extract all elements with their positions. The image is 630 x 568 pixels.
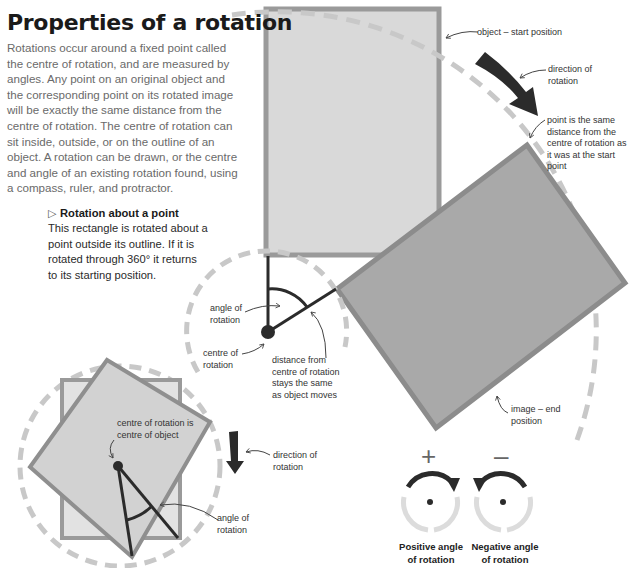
leader-inset-direction — [246, 451, 270, 455]
positive-circle-left — [404, 497, 428, 530]
inset-centre-dot — [113, 461, 123, 471]
label-inset-direction: direction of rotation — [273, 450, 328, 473]
label-object-start: object – start position — [477, 27, 617, 39]
leader-distance — [311, 312, 326, 358]
triangle-right-icon: ▷ — [48, 207, 56, 219]
positive-symbol: + — [421, 443, 436, 469]
negative-centre-dot — [500, 499, 506, 505]
positive-arrowhead — [446, 478, 460, 492]
label-distance: distance from centre of rotation stays t… — [272, 355, 340, 401]
caption-rotation-about-point: ▷Rotation about a point This rectangle i… — [48, 206, 208, 283]
label-image-end: image – end position — [511, 404, 571, 427]
label-same-distance: point is the same distance from the cent… — [547, 115, 630, 173]
leader-image-end — [497, 396, 508, 413]
positive-label: Positive angle of rotation — [398, 540, 464, 566]
label-direction: direction of rotation — [548, 64, 623, 87]
negative-arrowhead — [473, 478, 487, 492]
angle-arc — [268, 289, 307, 307]
negative-symbol: – — [494, 443, 508, 469]
centre-of-rotation-dot — [261, 325, 275, 339]
label-inset-angle: angle of rotation — [217, 513, 257, 536]
negative-circle-right — [507, 497, 531, 530]
positive-circle-right — [434, 497, 458, 530]
positive-arrow-arc — [408, 474, 452, 487]
leader-angle — [245, 306, 280, 312]
negative-label: Negative angle of rotation — [470, 540, 540, 566]
caption-body: This rectangle is rotated about a point … — [48, 222, 208, 280]
page-title: Properties of a rotation — [7, 10, 292, 35]
radius-line-end — [268, 289, 336, 332]
label-centre: centre of rotation — [203, 348, 245, 371]
leader-centre — [242, 344, 264, 354]
leader-direction — [520, 70, 546, 78]
leader-same-distance — [530, 120, 545, 138]
positive-centre-dot — [427, 499, 433, 505]
leader-object-start — [446, 32, 478, 38]
label-inset-centre: centre of rotation is centre of object — [117, 418, 197, 441]
start-rectangle — [266, 9, 439, 255]
caption-heading: Rotation about a point — [60, 207, 179, 219]
direction-arrow-small — [226, 431, 244, 474]
negative-arrow-arc — [481, 474, 525, 487]
label-angle: angle of rotation — [210, 303, 250, 326]
intro-paragraph: Rotations occur around a fixed point cal… — [7, 40, 239, 196]
negative-circle-left — [477, 497, 501, 530]
